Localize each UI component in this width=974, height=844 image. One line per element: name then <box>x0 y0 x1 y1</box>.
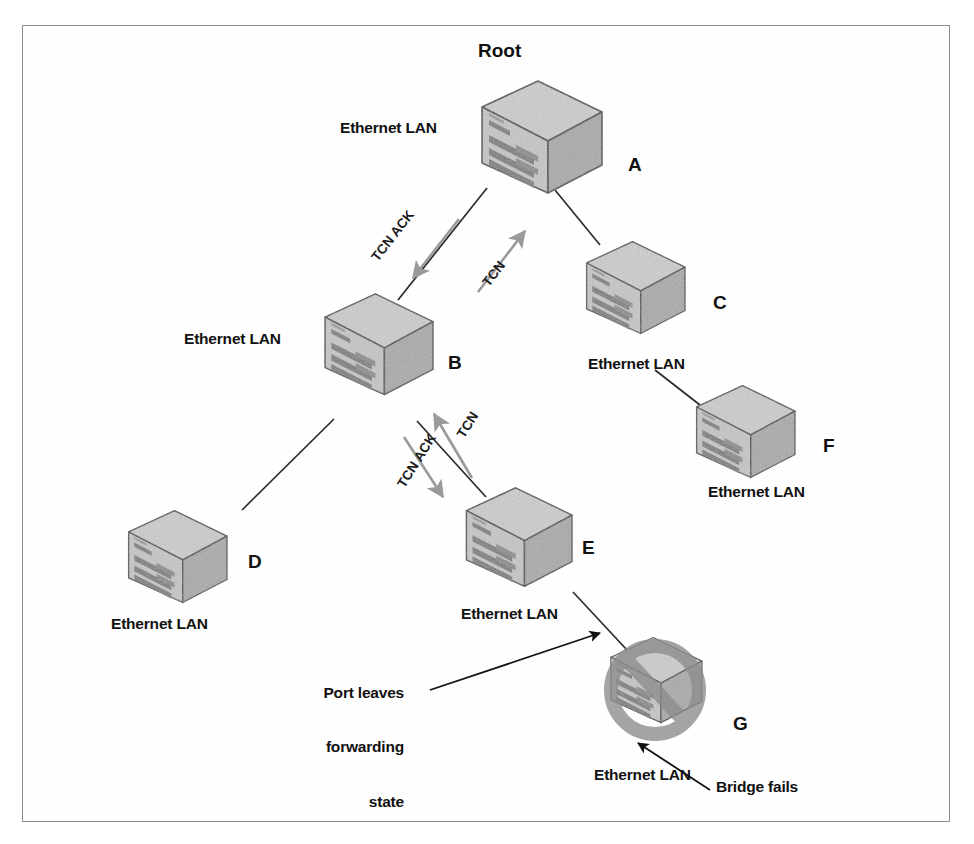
node-letter-c: C <box>713 292 727 314</box>
lan-label-f: Ethernet LAN <box>708 483 805 501</box>
node-letter-e: E <box>582 537 595 559</box>
link-e-g <box>573 592 627 650</box>
link-b-d <box>242 419 334 510</box>
bridge-node-d[interactable] <box>129 511 227 603</box>
lan-label-root: Ethernet LAN <box>340 119 437 137</box>
flow-arrow-tcn-ack-upper <box>413 219 459 278</box>
bridge-node-c[interactable] <box>587 242 685 334</box>
lan-label-e: Ethernet LAN <box>461 605 558 623</box>
lan-label-g: Ethernet LAN <box>594 766 691 784</box>
bridge-node-e[interactable] <box>466 488 572 587</box>
node-letter-b: B <box>448 352 462 374</box>
link-c-f <box>655 370 700 405</box>
annotation-bridge-fails: Bridge fails <box>716 778 798 796</box>
link-root-b <box>398 188 487 300</box>
annotation-port-leaves: Port leaves forwarding state <box>204 647 404 844</box>
lan-label-c: Ethernet LAN <box>588 355 685 373</box>
annotation-port-leaves-line-1: Port leaves <box>204 684 404 702</box>
link-root-c <box>555 190 600 245</box>
network-diagram-figure: Root A C F B D E G Ethernet LAN Ethernet… <box>0 0 974 844</box>
lan-label-d: Ethernet LAN <box>111 615 208 633</box>
bridge-node-a[interactable] <box>482 81 602 193</box>
root-bridge-label: Root <box>478 40 521 62</box>
annotation-port-leaves-line-2: forwarding <box>204 738 404 756</box>
diagram-canvas <box>0 0 974 844</box>
bridge-node-b[interactable] <box>325 294 433 395</box>
node-letter-d: D <box>248 551 262 573</box>
lan-label-b: Ethernet LAN <box>184 330 281 348</box>
node-letter-f: F <box>823 435 835 457</box>
bridge-node-f[interactable] <box>697 386 795 478</box>
annotation-leader-port-leaves <box>430 633 600 690</box>
annotation-port-leaves-line-3: state <box>204 793 404 811</box>
node-letter-a: A <box>628 154 642 176</box>
node-letter-g: G <box>733 713 748 735</box>
